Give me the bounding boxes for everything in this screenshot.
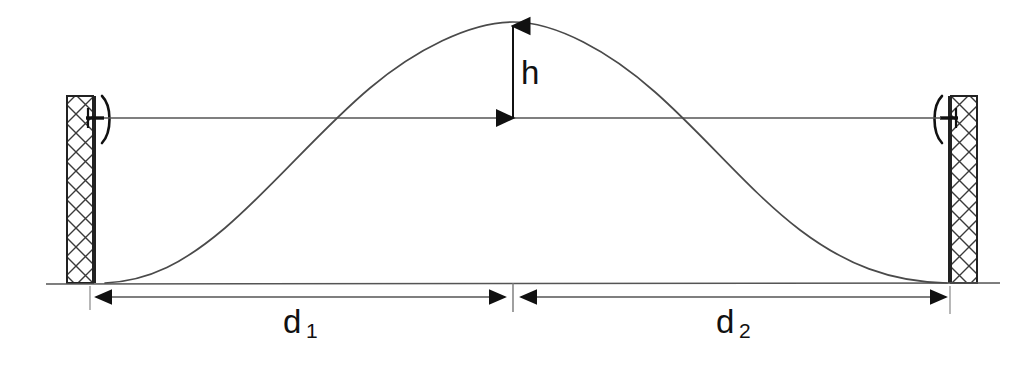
diagram-canvas: h d 1 d 2: [0, 0, 1036, 369]
right-support-column: [949, 96, 977, 283]
height-label: h: [521, 56, 539, 89]
distance-2-subscript: 2: [739, 320, 751, 341]
distance-2-label: d: [716, 305, 734, 338]
diagram-vector-layer: [0, 0, 1036, 369]
distance-1-subscript: 1: [306, 320, 318, 341]
left-support-column: [67, 96, 95, 283]
ground-baseline: [46, 283, 1000, 284]
distance-1-label: d: [283, 305, 301, 338]
